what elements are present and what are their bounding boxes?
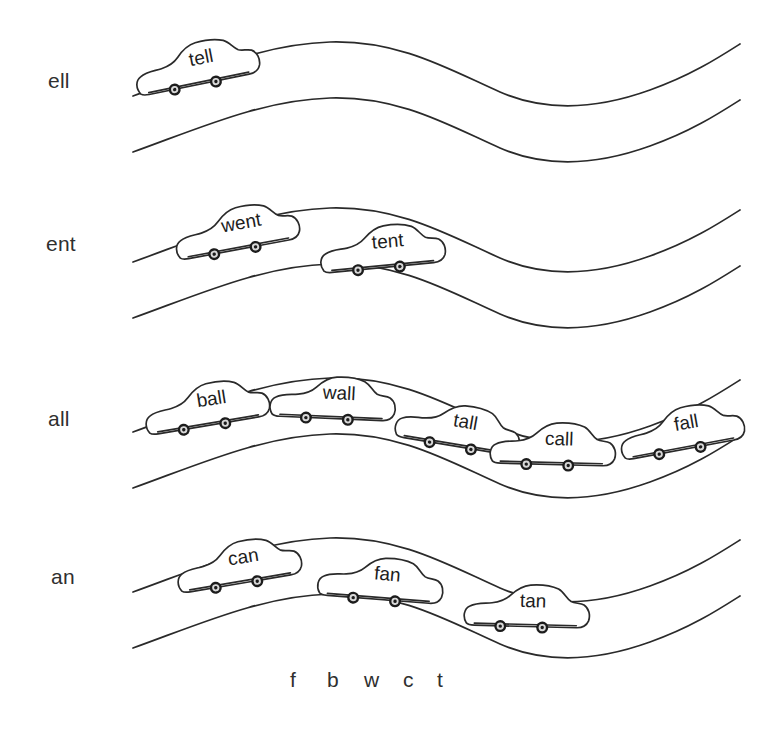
onset-letter-b: b xyxy=(327,668,339,692)
car-tent[interactable]: tent xyxy=(318,220,447,279)
car-fan[interactable]: fan xyxy=(316,552,445,611)
car-word-label: fall xyxy=(672,410,700,435)
car-tell[interactable]: tell xyxy=(131,31,263,102)
onset-letter-w: w xyxy=(364,668,379,692)
onset-letter-c: c xyxy=(403,668,414,692)
car-call[interactable]: call xyxy=(490,420,617,473)
car-word-label: call xyxy=(545,428,574,450)
car-can[interactable]: can xyxy=(173,532,304,599)
car-word-label: wall xyxy=(321,381,356,404)
cars-layer: tellwenttentballwalltallcallfallcanfanta… xyxy=(131,31,748,635)
car-word-label: tall xyxy=(452,409,480,434)
road-edge-bottom xyxy=(133,264,740,328)
car-ball[interactable]: ball xyxy=(141,374,272,441)
rime-label-an: an xyxy=(51,565,75,589)
onset-letter-row: fbwct xyxy=(0,668,767,704)
car-word-label: tan xyxy=(520,590,547,612)
car-fall[interactable]: fall xyxy=(616,397,748,466)
worksheet-canvas: tellwenttentballwalltallcallfallcanfanta… xyxy=(0,0,767,729)
road-edge-bottom xyxy=(133,594,740,658)
onset-letter-f: f xyxy=(290,668,296,692)
rime-label-ent: ent xyxy=(46,232,76,256)
car-went[interactable]: went xyxy=(171,197,303,266)
rime-label-all: all xyxy=(48,407,70,431)
car-word-label: tent xyxy=(371,229,405,253)
rime-label-ell: ell xyxy=(48,69,70,93)
road-edge-bottom xyxy=(133,98,740,162)
car-tan[interactable]: tan xyxy=(464,582,591,635)
car-word-label: fan xyxy=(373,562,401,585)
onset-letter-t: t xyxy=(437,668,443,692)
